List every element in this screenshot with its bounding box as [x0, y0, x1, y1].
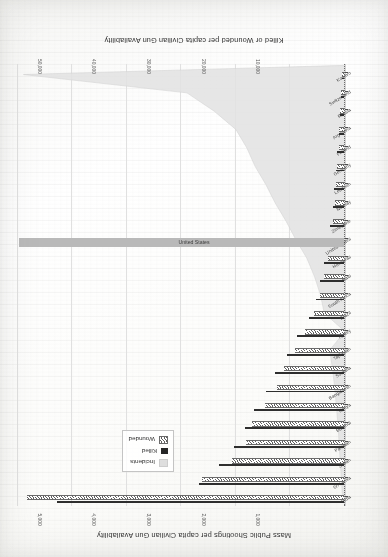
secondary-tick-label: 3,000 [146, 513, 151, 525]
bar-wounded[interactable] [277, 385, 344, 390]
table-row: Russia [18, 101, 345, 119]
bar-killed[interactable] [316, 299, 344, 301]
scanned-page: Mass Public Shootings per capita Civilia… [0, 0, 388, 557]
category-label: Kosovo [336, 71, 352, 83]
table-row: Haiti [18, 267, 345, 285]
bar-killed[interactable] [266, 391, 344, 393]
plot-area: IndiaSri LankaSudanPakistanBurundiKenyaB… [18, 64, 346, 506]
bar-wounded[interactable] [341, 90, 344, 95]
bar-wounded[interactable] [333, 219, 344, 224]
bar-wounded[interactable] [335, 200, 344, 205]
legend-item-incidents[interactable]: Incidents [129, 459, 168, 467]
bar-wounded[interactable] [337, 164, 344, 169]
rotated-chart-container: Mass Public Shootings per capita Civilia… [8, 14, 380, 544]
secondary-tick-label: 1,000 [255, 513, 260, 525]
primary-tick-label: 10,000 [255, 59, 260, 74]
table-row: Honduras [18, 248, 345, 266]
bar-wounded[interactable] [295, 348, 344, 353]
table-row: Finland [18, 138, 345, 156]
highlight-bar-label: United States [179, 239, 210, 245]
bar-killed[interactable] [254, 409, 344, 411]
bar-killed[interactable] [336, 170, 344, 172]
bar-wounded[interactable] [339, 127, 344, 132]
table-row: Pakistan [18, 432, 345, 450]
bar-wounded[interactable] [336, 182, 344, 187]
table-row: Turkey [18, 322, 345, 340]
bar-wounded[interactable] [27, 495, 344, 500]
bar-chart: Mass Public Shootings per capita Civilia… [8, 14, 380, 544]
primary-tick-label: 40,000 [91, 59, 96, 74]
bar-killed[interactable] [341, 96, 344, 98]
highlight-bar-united-states[interactable]: United States [19, 238, 344, 247]
bar-wounded[interactable] [305, 329, 344, 334]
bar-wounded[interactable] [328, 256, 344, 261]
bar-wounded[interactable] [202, 477, 344, 482]
table-row: India [18, 488, 345, 506]
bar-killed[interactable] [219, 464, 344, 466]
bar-killed[interactable] [330, 225, 344, 227]
bar-wounded[interactable] [232, 458, 344, 463]
bar-wounded[interactable] [339, 145, 344, 150]
table-row: Zimbabwe [18, 211, 345, 229]
table-row: Argentina [18, 119, 345, 137]
primary-tick-label: 20,000 [200, 59, 205, 74]
table-row: Brazil [18, 303, 345, 321]
bar-killed[interactable] [321, 280, 345, 282]
table-row: Sudan [18, 451, 345, 469]
bar-killed[interactable] [334, 188, 344, 190]
bar-killed[interactable] [333, 206, 344, 208]
table-row: Norway [18, 193, 345, 211]
bar-wounded[interactable] [324, 274, 344, 279]
primary-tick-label: 50,000 [36, 59, 41, 74]
bar-wounded[interactable] [265, 403, 344, 408]
table-row: South Africa [18, 285, 345, 303]
table-row: Lebanon [18, 175, 345, 193]
table-row: Somalia [18, 359, 345, 377]
bar-wounded[interactable] [246, 440, 344, 445]
secondary-tick-label: 4,000 [91, 513, 96, 525]
bar-wounded[interactable] [284, 366, 344, 371]
secondary-tick-label: 5,000 [36, 513, 41, 525]
legend-label-incidents: Incidents [130, 460, 155, 467]
table-row: Tajikistan [18, 340, 345, 358]
bar-killed[interactable] [245, 427, 344, 429]
bar-wounded[interactable] [340, 108, 344, 113]
killed-swatch-icon [161, 449, 168, 455]
bar-killed[interactable] [342, 78, 344, 80]
primary-axis-title: Killed or Wounded per capita Civilian Gu… [8, 36, 380, 45]
table-row: Germany [18, 156, 345, 174]
legend-label-wounded: Wounded [129, 437, 155, 444]
bar-killed[interactable] [199, 483, 344, 485]
bar-killed[interactable] [337, 151, 344, 153]
legend-label-killed: Killed [142, 448, 157, 455]
bar-wounded[interactable] [342, 72, 344, 77]
bar-killed[interactable] [275, 372, 344, 374]
table-row: Burundi [18, 414, 345, 432]
bar-wounded[interactable] [314, 311, 344, 316]
bar-killed[interactable] [297, 335, 344, 337]
table-row: Switzerland [18, 82, 345, 100]
primary-tick-label: 30,000 [146, 59, 151, 74]
table-row: Bangladesh [18, 377, 345, 395]
secondary-tick-label: 2,000 [200, 513, 205, 525]
table-row: Kosovo [18, 64, 345, 82]
bar-killed[interactable] [339, 133, 344, 135]
bar-killed[interactable] [234, 446, 344, 448]
bar-killed[interactable] [324, 262, 344, 264]
incidents-swatch-icon [159, 459, 168, 467]
chart-legend[interactable]: Incidents Killed Wounded [122, 430, 174, 472]
wounded-swatch-icon [159, 436, 168, 444]
legend-item-wounded[interactable]: Wounded [129, 436, 168, 444]
bar-killed[interactable] [287, 354, 344, 356]
secondary-axis-title: Mass Public Shootings per capita Civilia… [8, 531, 380, 540]
bar-wounded[interactable] [320, 293, 344, 298]
bar-killed[interactable] [57, 501, 344, 503]
bar-wounded[interactable] [252, 421, 344, 426]
legend-item-killed[interactable]: Killed [129, 448, 168, 455]
bar-killed[interactable] [309, 317, 344, 319]
table-row: United StatesUnited States [18, 230, 345, 248]
bar-killed[interactable] [340, 114, 344, 116]
table-row: Sri Lanka [18, 469, 345, 487]
table-row: Kenya [18, 396, 345, 414]
